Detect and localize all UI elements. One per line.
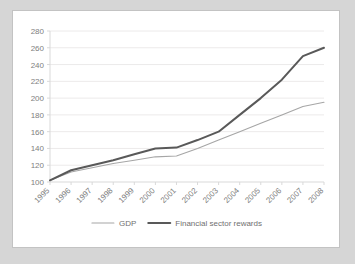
x-tick-label: 2003 <box>201 186 220 205</box>
y-tick-label: 160 <box>31 128 45 137</box>
x-axis-tick-labels: 1995199619971998199920002001200220032004… <box>32 186 325 205</box>
x-tick-label: 2000 <box>138 186 157 205</box>
axis-lines-group <box>50 31 324 182</box>
x-tick-label: 1995 <box>32 186 51 205</box>
x-tick-label: 2008 <box>306 186 325 205</box>
x-tick-label: 1996 <box>54 186 73 205</box>
legend-label-financial-sector-rewards: Financial sector rewards <box>175 219 262 228</box>
x-tick-label: 1999 <box>117 186 136 205</box>
line-chart-svg: 100120140160180200220240260280 199519961… <box>13 11 339 247</box>
y-tick-label: 180 <box>31 111 45 120</box>
x-tick-label: 1998 <box>96 186 115 205</box>
x-tick-label: 2001 <box>159 186 178 205</box>
chart-legend: GDPFinancial sector rewards <box>92 219 262 228</box>
legend-label-gdp: GDP <box>119 219 136 228</box>
series-lines-group <box>50 48 324 181</box>
x-tick-label: 2006 <box>264 186 283 205</box>
chart-page: 100120140160180200220240260280 199519961… <box>0 0 355 264</box>
y-tick-label: 140 <box>31 144 45 153</box>
chart-panel: 100120140160180200220240260280 199519961… <box>12 10 340 248</box>
y-tick-label: 280 <box>31 27 45 36</box>
x-tick-label: 2007 <box>285 186 304 205</box>
y-tick-label: 260 <box>31 44 45 53</box>
y-tick-label: 220 <box>31 77 45 86</box>
y-axis-tick-labels: 100120140160180200220240260280 <box>31 27 45 187</box>
y-tick-label: 240 <box>31 61 45 70</box>
x-tick-label: 2004 <box>222 186 241 205</box>
series-line-gdp <box>50 102 324 180</box>
x-tick-label: 2002 <box>180 186 199 205</box>
y-tick-label: 120 <box>31 161 45 170</box>
y-tick-label: 200 <box>31 94 45 103</box>
gridlines-group <box>47 31 324 182</box>
x-tick-label: 2005 <box>243 186 262 205</box>
y-tick-label: 100 <box>31 178 45 187</box>
x-tick-label: 1997 <box>75 186 94 205</box>
